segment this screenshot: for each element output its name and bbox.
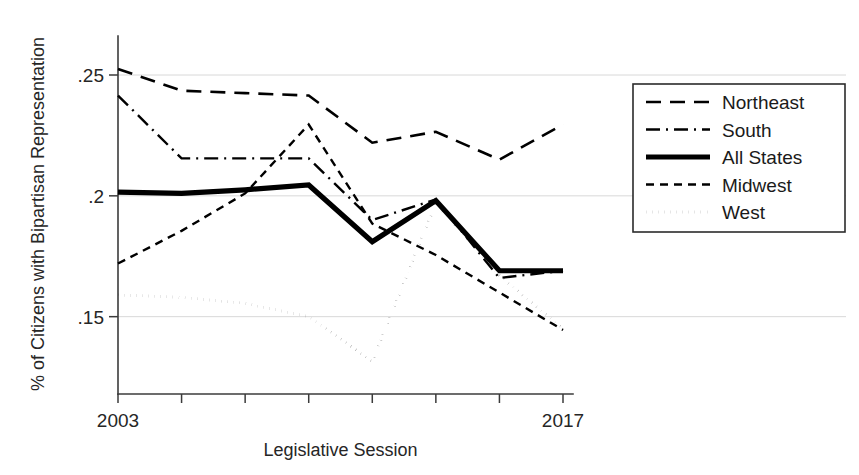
y-tick-label-1: .2 <box>88 186 104 207</box>
series-line-midwest <box>118 125 563 330</box>
y-tick-label-2: .15 <box>78 307 104 328</box>
legend-label-west[interactable]: West <box>722 202 766 223</box>
legend-label-northeast[interactable]: Northeast <box>722 92 805 113</box>
series-line-south <box>118 96 563 278</box>
legend-label-all-states[interactable]: All States <box>722 147 802 168</box>
series-line-west <box>118 203 563 361</box>
x-tick-label-0: 2003 <box>97 410 139 431</box>
x-axis-title: Legislative Session <box>263 440 417 460</box>
chart-figure: .25.2.1520032017Legislative Session% of … <box>0 0 859 475</box>
series-line-northeast <box>118 69 563 160</box>
legend-label-south[interactable]: South <box>722 120 772 141</box>
y-tick-label-0: .25 <box>78 65 104 86</box>
legend-label-midwest[interactable]: Midwest <box>722 175 792 196</box>
y-axis-title: % of Citizens with Bipartisan Representa… <box>28 37 48 391</box>
x-tick-label-7: 2017 <box>542 410 584 431</box>
